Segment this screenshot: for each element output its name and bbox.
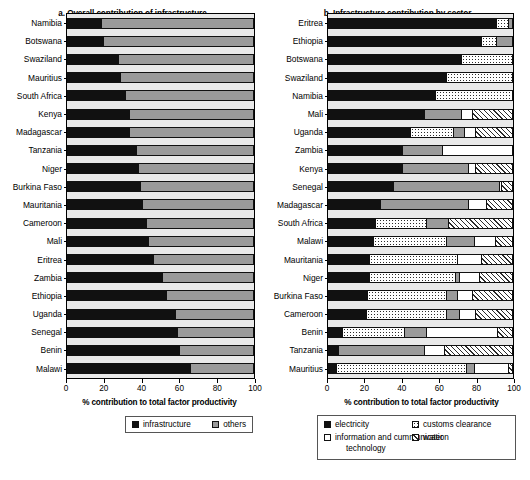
bar-segment-black [68, 164, 138, 173]
bar-segment-gray [508, 19, 512, 28]
figure-container: a. Overall contribution of infrastructur… [0, 0, 530, 480]
bar-segment-black [68, 291, 166, 300]
bar-segment-black [329, 37, 481, 46]
bar-row-label: Benin [302, 328, 323, 336]
stacked-bar [328, 218, 513, 229]
legend-item: information and cummunicationtechnology [324, 433, 408, 454]
legend-label: electricity [335, 420, 369, 429]
bar-segment-dots [336, 364, 466, 373]
bar-row: Swaziland [328, 72, 513, 83]
stacked-bar [328, 363, 513, 374]
x-axis-tick [364, 379, 365, 383]
stacked-bar [67, 236, 254, 247]
bar-segment-gray [175, 310, 253, 319]
bar-segment-gray [129, 110, 253, 119]
bar-row: Kenya [328, 163, 513, 174]
bar-row: Namibia [67, 18, 254, 29]
panel-b: b. Infrastructure contribution by sector… [265, 0, 530, 480]
bar-row-label: Eritrea [37, 255, 62, 263]
bar-row: Mali [67, 236, 254, 247]
bar-row-label: Senegal [292, 183, 323, 191]
bar-row-label: Malawi [297, 237, 323, 245]
stacked-bar [328, 309, 513, 320]
legend-swatch-dots [412, 421, 419, 428]
legend-label: infrastructure [143, 420, 191, 429]
bar-row-label: Madagascar [16, 128, 62, 136]
bar-row-label: Botswana [25, 37, 62, 45]
bar-row: Niger [328, 272, 513, 283]
x-axis-tick-label: 40 [137, 384, 146, 394]
bar-row: Mauritius [328, 363, 513, 374]
legend-label: customs clearance [423, 420, 491, 429]
bar-segment-black [329, 237, 373, 246]
bar-row: Zambia [67, 272, 254, 283]
bar-segment-black [329, 91, 435, 100]
bar-segment-white [459, 310, 475, 319]
bar-segment-gray [496, 37, 512, 46]
bar-segment-black [329, 364, 336, 373]
bar-row-label: Malawi [36, 364, 62, 372]
bar-segment-gray [125, 91, 253, 100]
bar-row: Ethiopia [67, 290, 254, 301]
bar-segment-black [68, 310, 175, 319]
bar-segment-gray [380, 200, 468, 209]
bar-segment-gray [426, 219, 448, 228]
bar-segment-gray [166, 291, 253, 300]
bar-segment-black [68, 128, 129, 137]
panel-a-rows: NamibiaBotswanaSwazilandMauritiusSouth A… [67, 14, 254, 378]
legend-label: water [423, 433, 443, 442]
x-axis-tick [217, 379, 218, 383]
bar-row-label: Mali [308, 110, 323, 118]
bar-segment-hatch [475, 128, 512, 137]
bar-row: South Africa [67, 90, 254, 101]
x-axis-tick-label: 0 [64, 384, 69, 394]
stacked-bar [67, 72, 254, 83]
bar-row: Botswana [67, 36, 254, 47]
bar-segment-black [329, 291, 367, 300]
bar-segment-black [68, 364, 190, 373]
bar-segment-black [329, 200, 380, 209]
bar-row-label: Swaziland [24, 55, 62, 63]
bar-segment-gray [179, 346, 253, 355]
bar-segment-black [329, 19, 496, 28]
stacked-bar [67, 290, 254, 301]
bar-segment-black [68, 19, 101, 28]
bar-row-label: Namibia [292, 92, 323, 100]
panel-a-plot-area: NamibiaBotswanaSwazilandMauritiusSouth A… [66, 13, 255, 379]
bar-row: Niger [67, 163, 254, 174]
bar-row-label: Eritrea [298, 19, 323, 27]
bar-segment-hatch [475, 310, 512, 319]
bar-row-label: Ethiopia [32, 292, 62, 300]
stacked-bar [67, 18, 254, 29]
bar-row-label: Uganda [33, 310, 62, 318]
bar-segment-dots [435, 91, 512, 100]
bar-row: Kenya [67, 109, 254, 120]
bar-segment-gray [338, 346, 424, 355]
x-axis-tick-label: 0 [325, 384, 330, 394]
x-axis-tick-label: 60 [175, 384, 184, 394]
panel-b-x-axis-labels: 020406080100 [327, 384, 514, 396]
bar-segment-gray [140, 182, 253, 191]
bar-segment-gray [402, 164, 468, 173]
panel-a: a. Overall contribution of infrastructur… [0, 0, 265, 480]
bar-segment-gray [446, 291, 457, 300]
bar-row: Burkina Faso [328, 290, 513, 301]
bar-row-label: Mauritania [23, 201, 62, 209]
bar-segment-black [329, 73, 446, 82]
stacked-bar [328, 72, 513, 83]
x-axis-tick [439, 379, 440, 383]
bar-row-label: Tanzania [289, 346, 323, 354]
bar-segment-gray [466, 364, 473, 373]
stacked-bar [67, 309, 254, 320]
bar-segment-hatch [479, 273, 512, 282]
bar-segment-gray [138, 164, 253, 173]
stacked-bar [328, 54, 513, 65]
bar-segment-gray [446, 310, 459, 319]
panel-a-axis-title: % contribution to total factor productiv… [0, 398, 265, 407]
x-axis-tick [66, 379, 67, 383]
bar-row-label: Zambia [295, 146, 323, 154]
stacked-bar [67, 145, 254, 156]
x-axis-tick-label: 20 [360, 384, 369, 394]
bar-segment-dots [369, 255, 457, 264]
bar-segment-white [461, 110, 472, 119]
